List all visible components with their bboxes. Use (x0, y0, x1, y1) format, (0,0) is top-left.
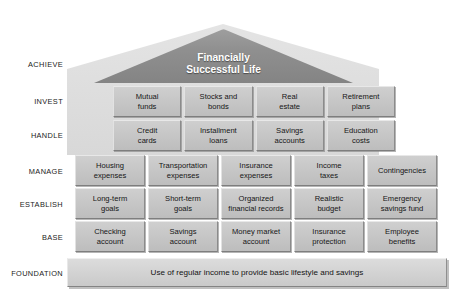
brick-label-line: loans (200, 136, 237, 145)
brick-label: Long-termgoals (93, 194, 128, 213)
brick-label: Employeebenefits (385, 227, 419, 246)
brick-label-line: goals (93, 204, 128, 213)
tier-label-handle: HANDLE (0, 131, 63, 140)
tier-label-invest: INVEST (0, 97, 63, 106)
brick-label: Incometaxes (317, 161, 342, 180)
brick-label-line: bonds (200, 102, 238, 111)
brick-manage-1: Transportationexpenses (148, 155, 218, 186)
brick-label-line: Income (317, 161, 342, 170)
brick-label-line: Employee (385, 227, 419, 236)
brick-label-line: Emergency (381, 194, 424, 203)
tier-row-manage: HousingexpensesTransportationexpensesIns… (75, 155, 437, 186)
brick-handle-2: Savingsaccounts (256, 120, 324, 151)
brick-label: Realisticbudget (315, 194, 344, 213)
brick-label-line: expenses (159, 171, 208, 180)
brick-label-line: benefits (385, 237, 419, 246)
tier-row-base: CheckingaccountSavingsaccountMoney marke… (75, 221, 437, 252)
brick-base-4: Employeebenefits (367, 221, 437, 252)
brick-label-line: Mutual (136, 92, 159, 101)
brick-invest-1: Stocks andbonds (184, 86, 252, 117)
brick-label-line: cards (137, 136, 157, 145)
roof-title-line-1: Financially (186, 52, 261, 64)
brick-label-line: Savings (274, 126, 304, 135)
tier-label-base: BASE (0, 233, 63, 242)
brick-establish-1: Short-termgoals (148, 188, 218, 219)
tier-label-achieve: ACHIEVE (0, 60, 63, 69)
brick-label: Realestate (279, 92, 300, 111)
brick-label-line: Realistic (315, 194, 344, 203)
brick-label-line: Savings (169, 227, 196, 236)
brick-label-line: budget (315, 204, 344, 213)
brick-label-line: Organized (228, 194, 283, 203)
tier-label-foundation: FOUNDATION (0, 269, 63, 278)
brick-label-line: Transportation (159, 161, 208, 170)
brick-label-line: Short-term (165, 194, 201, 203)
tier-label-establish: ESTABLISH (0, 200, 63, 209)
tier-row-establish: Long-termgoalsShort-termgoalsOrganizedfi… (75, 188, 437, 219)
tier-row-handle: CreditcardsInstallmentloansSavingsaccoun… (113, 120, 395, 151)
brick-establish-4: Emergencysavings fund (367, 188, 437, 219)
brick-label: Transportationexpenses (159, 161, 208, 180)
brick-label-line: Long-term (93, 194, 128, 203)
brick-label-line: taxes (317, 171, 342, 180)
brick-label-line: Stocks and (200, 92, 238, 101)
roof-title: Financially Successful Life (186, 52, 261, 77)
financial-planning-pyramid-diagram: ACHIEVEINVESTHANDLEMANAGEESTABLISHBASEFO… (0, 0, 467, 303)
brick-label: Housingexpenses (94, 161, 127, 180)
brick-label-line: goals (165, 204, 201, 213)
brick-label-line: estate (279, 102, 300, 111)
brick-label-line: Credit (137, 126, 157, 135)
brick-label-line: Education (344, 126, 378, 135)
brick-handle-0: Creditcards (113, 120, 181, 151)
brick-label: Installmentloans (200, 126, 237, 145)
brick-base-0: Checkingaccount (75, 221, 145, 252)
foundation-bar: Use of regular income to provide basic l… (67, 258, 447, 287)
brick-label-line: financial records (228, 204, 283, 213)
brick-manage-4: Contingencies (367, 155, 437, 186)
brick-label-line: savings fund (381, 204, 424, 213)
brick-manage-3: Incometaxes (294, 155, 364, 186)
brick-label: Stocks andbonds (200, 92, 238, 111)
brick-label-line: protection (312, 237, 345, 246)
brick-base-2: Money marketaccount (221, 221, 291, 252)
brick-label-line: account (169, 237, 196, 246)
brick-handle-1: Installmentloans (184, 120, 252, 151)
brick-label: Mutualfunds (136, 92, 159, 111)
roof-title-line-2: Successful Life (186, 64, 261, 76)
brick-label: Insuranceprotection (312, 227, 345, 246)
brick-label: Money marketaccount (232, 227, 280, 246)
brick-invest-0: Mutualfunds (113, 86, 181, 117)
brick-label-line: Insurance (239, 161, 272, 170)
brick-label: Educationcosts (344, 126, 378, 145)
brick-label-line: Checking (94, 227, 126, 236)
brick-label: Retirementplans (342, 92, 379, 111)
brick-label-line: Contingencies (378, 166, 426, 175)
tier-row-invest: MutualfundsStocks andbondsRealestateReti… (113, 86, 395, 117)
brick-base-3: Insuranceprotection (294, 221, 364, 252)
brick-establish-3: Realisticbudget (294, 188, 364, 219)
brick-label: Short-termgoals (165, 194, 201, 213)
brick-label-line: expenses (94, 171, 127, 180)
brick-invest-2: Realestate (256, 86, 324, 117)
brick-label-line: plans (342, 102, 379, 111)
brick-manage-0: Housingexpenses (75, 155, 145, 186)
brick-label: Savingsaccount (169, 227, 196, 246)
brick-label-line: Installment (200, 126, 237, 135)
brick-label-line: expenses (239, 171, 272, 180)
brick-label-line: Housing (94, 161, 127, 170)
tier-label-manage: MANAGE (0, 167, 63, 176)
brick-label-line: Insurance (312, 227, 345, 236)
brick-label-line: Real (279, 92, 300, 101)
brick-manage-2: Insuranceexpenses (221, 155, 291, 186)
brick-label: Savingsaccounts (274, 126, 304, 145)
brick-label: Organizedfinancial records (228, 194, 283, 213)
brick-invest-3: Retirementplans (327, 86, 395, 117)
brick-handle-3: Educationcosts (327, 120, 395, 151)
brick-label: Insuranceexpenses (239, 161, 272, 180)
brick-label-line: account (232, 237, 280, 246)
brick-label-line: Money market (232, 227, 280, 236)
foundation-text: Use of regular income to provide basic l… (151, 268, 364, 277)
brick-label-line: Retirement (342, 92, 379, 101)
brick-establish-0: Long-termgoals (75, 188, 145, 219)
brick-establish-2: Organizedfinancial records (221, 188, 291, 219)
